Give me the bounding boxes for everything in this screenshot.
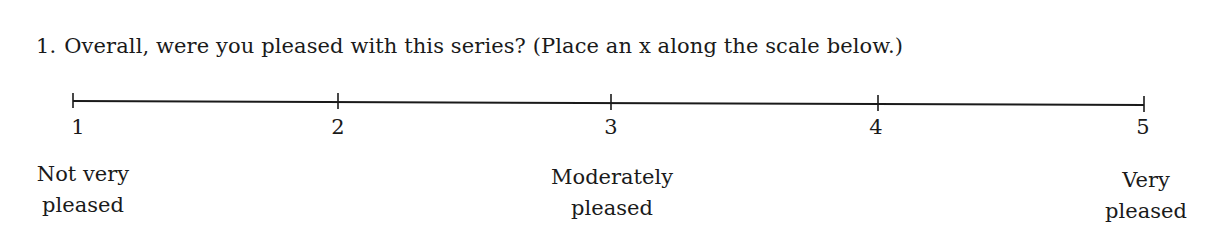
anchor-label-low: Not very pleased [37, 159, 129, 221]
anchor-label-high: Very pleased [1105, 165, 1187, 227]
tick-label-2: 2 [331, 115, 344, 139]
tick-label-4: 4 [869, 115, 882, 139]
tick-label-1: 1 [71, 115, 84, 139]
tick-label-3: 3 [604, 115, 617, 139]
tick-label-5: 5 [1136, 115, 1149, 139]
scale-line[interactable] [73, 101, 1144, 105]
anchor-label-mid: Moderately pleased [551, 162, 673, 224]
